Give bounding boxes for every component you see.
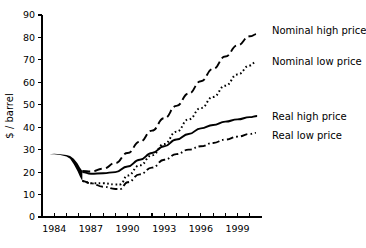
legend-label-3: Real high price	[272, 111, 347, 122]
y-tick-label: 10	[23, 189, 35, 200]
oil-price-forecast-chart: 0102030405060708090 19841987199019931996…	[0, 0, 366, 248]
legend-label-1: Nominal high price	[272, 25, 366, 36]
historical-range-polygon	[49, 154, 82, 181]
y-axis-title-text: $ / barrel	[4, 93, 15, 138]
x-tick-label: 1993	[152, 223, 176, 234]
historical-range-band	[49, 154, 82, 181]
y-tick-label: 30	[23, 144, 35, 155]
y-axis-title: $ / barrel	[4, 93, 15, 138]
y-tick-label: 0	[29, 211, 35, 222]
y-tick-label: 90	[23, 9, 35, 20]
chart-canvas: 0102030405060708090 19841987199019931996…	[0, 0, 366, 248]
y-tick-label: 50	[23, 99, 35, 110]
x-tick-label: 1990	[115, 223, 139, 234]
series-line-1	[82, 34, 257, 171]
x-tick-label: 1987	[79, 223, 103, 234]
chart-legend: Nominal high priceNominal low priceReal …	[272, 25, 366, 141]
y-tick-label: 80	[23, 32, 35, 43]
x-tick-label: 1999	[225, 223, 249, 234]
x-tick-label: 1996	[189, 223, 213, 234]
legend-label-4: Real low price	[272, 130, 342, 141]
y-axis-ticks: 0102030405060708090	[23, 9, 42, 222]
legend-label-2: Nominal low price	[272, 56, 362, 67]
axis-lines	[42, 15, 262, 217]
series-lines	[82, 34, 257, 189]
x-axis-ticks: 198419871990199319961999	[42, 213, 250, 234]
series-line-4	[82, 133, 256, 189]
axes	[42, 15, 262, 217]
y-tick-label: 70	[23, 54, 35, 65]
y-tick-label: 40	[23, 122, 35, 133]
x-tick-label: 1984	[42, 223, 66, 234]
series-line-3	[82, 116, 257, 174]
y-tick-label: 60	[23, 77, 35, 88]
y-tick-label: 20	[23, 167, 35, 178]
